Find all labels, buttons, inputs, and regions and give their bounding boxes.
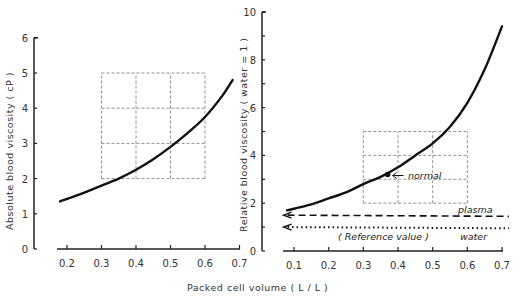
y-tick-label: 4 xyxy=(22,103,28,114)
x-tick-label: 0.3 xyxy=(355,260,371,271)
reference-value-label: ( Reference value ) xyxy=(338,231,429,242)
x-tick-label: 0.6 xyxy=(459,260,475,271)
plasma-reference-line xyxy=(288,215,509,216)
y-tick-label: 2 xyxy=(250,198,256,209)
left-panel: 01234560.20.30.40.50.60.7 xyxy=(22,33,248,269)
x-tick-label: 0.1 xyxy=(286,260,302,271)
x-axis-title: Packed cell volume ( L / L ) xyxy=(187,282,328,293)
viscosity-chart: 01234560.20.30.40.50.60.7 02468100.10.20… xyxy=(0,0,522,297)
x-tick-label: 0.7 xyxy=(232,258,248,269)
y-tick-label: 5 xyxy=(22,68,28,79)
y-tick-label: 0 xyxy=(250,246,256,257)
plasma-label: plasma xyxy=(457,204,493,215)
x-tick-label: 0.4 xyxy=(128,258,144,269)
x-tick-label: 0.6 xyxy=(197,258,213,269)
x-tick-label: 0.4 xyxy=(390,260,406,271)
y-tick-label: 0 xyxy=(22,244,28,255)
water-reference-line xyxy=(288,227,509,228)
water-label: water xyxy=(460,231,488,242)
left-y-axis-title: Absolute blood viscosity ( cP ) xyxy=(4,72,15,230)
y-tick-label: 2 xyxy=(22,174,28,185)
y-tick-label: 6 xyxy=(22,33,28,44)
x-tick-label: 0.5 xyxy=(425,260,441,271)
y-tick-label: 10 xyxy=(243,7,256,18)
y-tick-label: 4 xyxy=(250,150,256,161)
right-y-axis-title: Relative blood viscosity ( water = 1 ) xyxy=(238,38,249,232)
x-tick-label: 0.2 xyxy=(59,258,75,269)
viscosity-curve xyxy=(287,26,502,210)
normal-point-marker xyxy=(385,172,391,178)
x-tick-label: 0.7 xyxy=(494,260,510,271)
x-tick-label: 0.5 xyxy=(163,258,179,269)
y-tick-label: 8 xyxy=(250,55,256,66)
y-tick-label: 6 xyxy=(250,103,256,114)
viscosity-curve xyxy=(60,80,233,201)
normal-label: normal xyxy=(408,170,442,181)
x-tick-label: 0.2 xyxy=(321,260,337,271)
y-tick-label: 3 xyxy=(22,138,28,149)
y-tick-label: 1 xyxy=(22,209,28,220)
x-tick-label: 0.3 xyxy=(94,258,110,269)
